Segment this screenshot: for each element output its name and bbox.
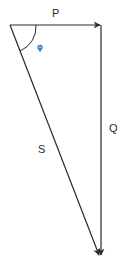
label-s: S — [38, 143, 45, 155]
label-p: P — [52, 7, 59, 19]
label-q: Q — [109, 122, 118, 134]
vector-s-line — [10, 25, 99, 255]
vector-triangle-diagram: P φ Q S — [0, 0, 121, 269]
label-phi: φ — [37, 42, 43, 52]
angle-phi-arc — [20, 25, 36, 51]
